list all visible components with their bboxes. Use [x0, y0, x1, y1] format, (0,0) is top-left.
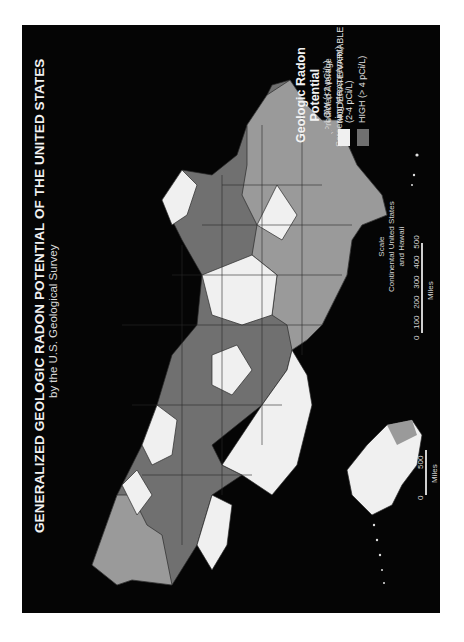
alaska-tick-500: 500 — [416, 456, 425, 469]
tick-300: 300 — [412, 275, 421, 288]
legend-title: Geologic Radon Potential — [294, 47, 322, 143]
tick-500: 500 — [412, 235, 421, 248]
legend-swatch-moderate — [338, 129, 350, 146]
tick-0: 0 — [412, 336, 421, 340]
map-title: GENERALIZED GEOLOGIC RADON POTENTIAL OF … — [32, 59, 47, 533]
legend-swatch-low — [319, 129, 331, 146]
tick-200: 200 — [412, 295, 421, 308]
scale-title: Scale — [377, 201, 387, 292]
scale-alaska-unit: Miles — [430, 464, 440, 483]
scale-line1: Continental United States — [387, 201, 397, 292]
scale-line2: and Hawaii — [397, 201, 407, 292]
scale-conus-unit: Miles — [426, 281, 436, 300]
map-frame: GENERALIZED GEOLOGIC RADON POTENTIAL OF … — [22, 25, 440, 613]
hawaii-islands — [411, 153, 419, 186]
tick-100: 100 — [412, 316, 421, 329]
legend-title-line1: Geologic Radon — [294, 47, 308, 143]
alaska-tick-0: 0 — [416, 496, 425, 500]
radon-potential-map — [22, 25, 440, 613]
legend-label-high: HIGH (> 4 pCi/L) — [357, 56, 367, 123]
legend-swatch-high — [357, 129, 369, 146]
scale-alaska-ticks: 0 500 — [416, 456, 426, 500]
tick-400: 400 — [412, 255, 421, 268]
map-subtitle: by the U.S. Geological Survey — [47, 245, 59, 398]
aleutian-islands — [373, 524, 385, 584]
scale-conus-caption: Scale Continental United States and Hawa… — [377, 201, 407, 292]
legend-label-low: LOW (<2 pCi/L) — [322, 60, 332, 123]
scale-conus-ticks: 0 100 200 300 400 500 — [412, 235, 422, 340]
legend-label-moderate-range: (2-4 pCi/L) — [344, 80, 354, 123]
